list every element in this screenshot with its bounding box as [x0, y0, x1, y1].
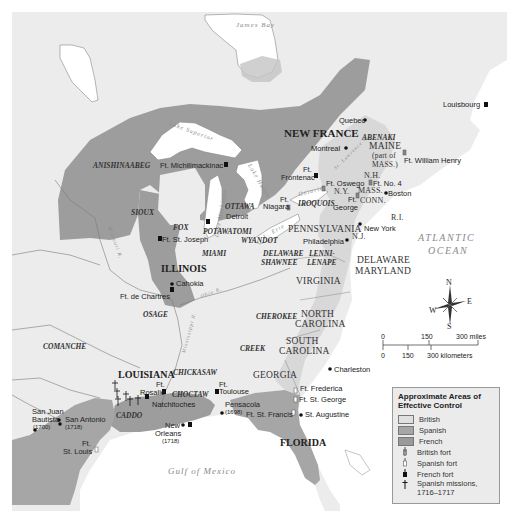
compass-s: S	[447, 323, 451, 331]
legend-item-french: French	[398, 436, 494, 447]
compass-n: N	[446, 279, 452, 287]
label-ft-frontenac-2: Frontenac	[281, 174, 315, 182]
label-ft-frederica: Ft. Frederica	[300, 385, 343, 393]
label-maryland: MARYLAND	[355, 267, 411, 277]
label-quebec: Quebec	[339, 117, 365, 125]
label-ft-rosalie-2: Rosalie	[140, 389, 165, 397]
label-ft-no4: Ft. No. 4	[373, 180, 402, 188]
label-ft-toulouse-2: Toulouse	[219, 388, 249, 396]
label-ft-st-louis-2: St. Louis	[63, 448, 92, 456]
label-charleston: Charleston	[334, 366, 370, 374]
label-delaware-tribe: DELAWARE	[263, 250, 303, 258]
label-natchitoches: Natchitoches	[152, 401, 195, 409]
label-san-antonio-year: (1718)	[65, 424, 82, 430]
label-louisbourg: Louisbourg	[443, 101, 480, 109]
label-atlantic: ATLANTIC	[418, 233, 475, 243]
legend-label: French fort	[417, 470, 453, 479]
label-ft-niagara-2: Niagara	[263, 203, 289, 211]
legend-label: Spanish	[419, 426, 446, 435]
label-gulf-of-mexico: Gulf of Mexico	[168, 467, 236, 476]
scale-miles-0: 0	[381, 333, 385, 340]
label-new-orleans-2: Orleans	[155, 430, 181, 438]
label-ri: R.I.	[391, 214, 404, 222]
label-mass: MASS.	[358, 187, 383, 195]
label-north-carolina-2: CAROLINA	[295, 320, 346, 330]
label-cahokia: Cahokia	[176, 280, 204, 288]
label-iroquois: IROQUOIS	[298, 200, 335, 208]
label-choctaw: CHOCTAW	[172, 391, 208, 399]
label-new-orleans-year: (1718)	[162, 438, 179, 444]
scale-km-0: 0	[381, 352, 385, 359]
legend-item-spanish-fort: Spanish fort	[398, 458, 494, 469]
label-ft-george-2: George	[333, 204, 358, 212]
spanish-swatch	[398, 426, 414, 435]
map-legend: Approximate Areas of Effective Control B…	[392, 387, 500, 504]
legend-label: Spanish missions, 1716–1717	[417, 480, 494, 497]
label-maine-part: (part of	[372, 152, 396, 160]
label-chickasaw: CHICKASAW	[173, 369, 217, 377]
label-ft-st-george: Ft. St. George	[299, 396, 346, 404]
legend-item-spanish: Spanish	[398, 425, 494, 436]
scale-miles-150: 150	[421, 333, 433, 340]
label-pensacola-year: (1698)	[225, 409, 242, 415]
label-ottawa: OTTAWA	[225, 203, 255, 211]
label-san-juan-year: (1700)	[33, 424, 50, 430]
label-lenni: LENNI-	[309, 250, 335, 258]
label-virginia: VIRGINIA	[296, 277, 341, 287]
french-fort-icon	[398, 469, 412, 480]
label-new-york: New York	[364, 225, 396, 233]
label-maine-mass: MASS.)	[372, 161, 398, 169]
scale-km-150: 150	[402, 352, 414, 359]
label-georgia: GEORGIA	[253, 371, 297, 381]
legend-item-spanish-missions: Spanish missions, 1716–1717	[398, 480, 494, 500]
british-fort-icon	[398, 447, 412, 458]
label-ft-william-henry: Ft. William Henry	[404, 157, 461, 165]
label-new-france: NEW FRANCE	[284, 128, 359, 139]
legend-item-british: British	[398, 414, 494, 425]
mission-cross-icon	[398, 480, 412, 491]
label-philadelphia: Philadelphia	[303, 238, 344, 246]
label-ft-st-joseph: Ft. St. Joseph	[162, 236, 208, 244]
label-creek: CREEK	[240, 345, 265, 353]
label-south-carolina-2: CAROLINA	[279, 347, 330, 357]
label-ft-michilimackinac: Ft. Michilimackinac	[160, 162, 223, 170]
spanish-fort-icon	[398, 458, 412, 469]
label-caddo: CADDO	[116, 412, 142, 420]
label-conn: CONN.	[360, 197, 386, 205]
french-swatch	[398, 437, 414, 446]
compass-w: W	[429, 307, 437, 315]
label-illinois: ILLINOIS	[161, 264, 207, 274]
label-st-augustine: St. Augustine	[305, 411, 349, 419]
legend-label: British fort	[417, 448, 451, 457]
label-abenaki: ABENAKI	[362, 134, 395, 142]
label-florida: FLORIDA	[280, 438, 326, 448]
label-ocean: OCEAN	[428, 246, 468, 256]
label-delaware: DELAWARE	[357, 256, 410, 266]
legend-label: British	[419, 415, 440, 424]
label-ft-de-chartres: Ft. de Chartres	[120, 293, 170, 301]
legend-label: Spanish fort	[417, 459, 457, 468]
compass-e: E	[467, 298, 472, 306]
british-swatch	[398, 415, 414, 424]
label-pennsylvania: PENNSYLVANIA	[288, 225, 362, 235]
label-shawnee: SHAWNEE	[261, 259, 297, 267]
label-pensacola: Pensacola	[225, 401, 260, 409]
label-detroit: Detroit	[226, 213, 248, 221]
label-san-antonio: San Antonio	[65, 416, 105, 424]
label-ft-st-francis: Ft. St. Francis	[246, 411, 293, 419]
legend-title: Approximate Areas of Effective Control	[398, 392, 494, 410]
label-osage: OSAGE	[143, 311, 168, 319]
label-potawatomi: POTAWATOMI	[203, 228, 252, 236]
label-montreal: Montreal	[311, 145, 340, 153]
label-fox: FOX	[173, 224, 188, 232]
scale-km-300: 300 kilometers	[427, 352, 473, 359]
label-comanche: COMANCHE	[43, 343, 86, 351]
label-wyandot: WYANDOT	[241, 237, 278, 245]
scale-miles-300: 300 miles	[456, 333, 486, 340]
label-james-bay: James Bay	[236, 22, 275, 29]
label-anishinaabeg: ANISHINAABEG	[93, 162, 150, 170]
label-san-juan-2: Bautista	[32, 416, 59, 424]
label-cherokee: CHEROKEE	[256, 313, 297, 321]
legend-item-british-fort: British fort	[398, 447, 494, 458]
label-miami: MIAMI	[202, 250, 226, 258]
